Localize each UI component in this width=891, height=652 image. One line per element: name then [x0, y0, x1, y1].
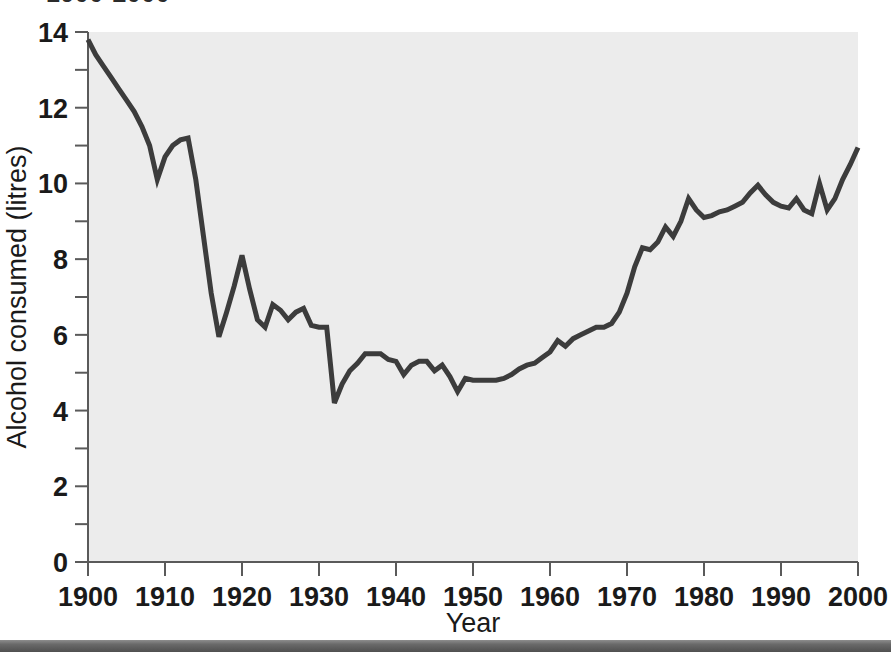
y-tick-label: 6	[53, 321, 68, 351]
chart-figure: 1900-2000 02468101214 190019101920193019…	[0, 0, 891, 652]
x-tick-label: 1980	[674, 582, 734, 612]
x-tick-label: 2000	[828, 582, 888, 612]
x-axis: 1900191019201930194019501960197019801990…	[58, 562, 888, 612]
y-tick-label: 2	[53, 472, 68, 502]
line-chart: 02468101214 1900191019201930194019501960…	[0, 0, 891, 652]
plot-area-background	[88, 32, 858, 562]
x-axis-title: Year	[446, 608, 501, 638]
y-tick-label: 10	[38, 169, 68, 199]
x-tick-label: 1910	[135, 582, 195, 612]
x-tick-label: 1920	[212, 582, 272, 612]
x-tick-label: 1970	[597, 582, 657, 612]
bottom-rule	[0, 640, 891, 652]
x-tick-label: 1990	[751, 582, 811, 612]
y-tick-label: 4	[53, 397, 68, 427]
x-tick-label: 1900	[58, 582, 118, 612]
x-tick-label: 1960	[520, 582, 580, 612]
y-axis-title: Alcohol consumed (litres)	[2, 145, 32, 448]
y-tick-label: 12	[38, 94, 68, 124]
y-axis: 02468101214	[38, 18, 88, 578]
y-tick-label: 0	[53, 548, 68, 578]
x-tick-label: 1940	[366, 582, 426, 612]
x-tick-label: 1930	[289, 582, 349, 612]
y-tick-label: 14	[38, 18, 68, 48]
y-tick-label: 8	[53, 245, 68, 275]
